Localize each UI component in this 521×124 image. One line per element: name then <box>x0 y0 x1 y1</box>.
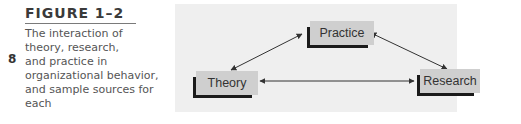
title-rule <box>25 23 136 24</box>
caption-line: The interaction of <box>25 27 160 41</box>
node-label: Research <box>423 74 477 88</box>
node-practice: Practice <box>310 21 374 45</box>
caption-line: each <box>25 97 160 111</box>
figure-title: FIGURE 1–2 <box>25 5 124 21</box>
node-theory: Theory <box>196 71 258 95</box>
node-label: Theory <box>208 76 247 90</box>
node-research: Research <box>420 69 480 93</box>
caption-line: theory, research, <box>25 41 160 55</box>
node-label: Practice <box>319 26 364 40</box>
page-number: 8 <box>8 52 16 66</box>
caption-line: organizational behavior, <box>25 69 160 83</box>
caption-line: and sample sources for <box>25 83 160 97</box>
caption-line: and practice in <box>25 55 160 69</box>
figure-caption: The interaction of theory, research, and… <box>25 27 160 111</box>
